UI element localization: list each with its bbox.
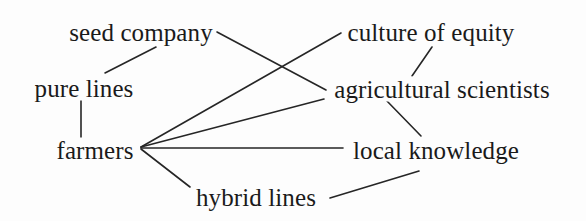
node-label-hybrid_lines: hybrid lines <box>194 185 318 210</box>
edge-seed_company-to-agricultural_scientists <box>217 32 326 90</box>
edge-farmers-to-culture_of_equity <box>141 33 341 147</box>
edge-pure_lines-to-seed_company <box>105 47 156 73</box>
edge-agricultural_scientists-to-local_knowledge <box>386 100 421 136</box>
node-label-farmers: farmers <box>54 138 135 163</box>
node-label-local_knowledge: local knowledge <box>351 138 521 163</box>
node-label-seed_company: seed company <box>67 20 215 45</box>
edges-group <box>81 32 432 198</box>
network-diagram: seed companyculture of equitypure linesa… <box>0 0 586 221</box>
edge-farmers-to-hybrid_lines <box>141 149 190 187</box>
node-label-pure_lines: pure lines <box>33 76 136 101</box>
node-label-agricultural_scientists: agricultural scientists <box>332 77 551 102</box>
edge-culture_of_equity-to-agricultural_scientists <box>412 47 432 76</box>
node-label-culture_of_equity: culture of equity <box>346 20 517 45</box>
edge-hybrid_lines-to-local_knowledge <box>330 171 419 198</box>
edge-farmers-to-agricultural_scientists <box>141 99 324 147</box>
